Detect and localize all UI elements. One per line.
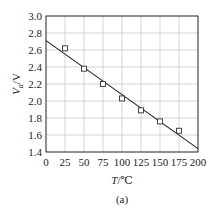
x-tick-label: 125 bbox=[133, 156, 150, 168]
y-axis-ticks: 1.41.61.82.02.22.42.62.83.0 bbox=[28, 10, 42, 158]
data-point-square bbox=[120, 96, 125, 101]
y-tick-label: 2.0 bbox=[28, 95, 42, 107]
data-point-square bbox=[82, 66, 87, 71]
y-axis-label: Va/V bbox=[10, 73, 25, 95]
x-tick-label: 0 bbox=[43, 156, 49, 168]
data-point-square bbox=[158, 119, 163, 124]
x-tick-label: 150 bbox=[152, 156, 169, 168]
y-tick-label: 1.6 bbox=[28, 129, 42, 141]
x-tick-label: 25 bbox=[60, 156, 72, 168]
y-tick-label: 3.0 bbox=[28, 10, 42, 22]
y-tick-label: 2.8 bbox=[28, 27, 42, 39]
x-tick-label: 100 bbox=[114, 156, 131, 168]
y-tick-label: 2.6 bbox=[28, 44, 42, 56]
data-point-square bbox=[101, 82, 106, 87]
y-tick-label: 2.4 bbox=[28, 61, 42, 73]
x-axis-ticks: 0255075100125150175200 bbox=[43, 156, 207, 168]
data-point-square bbox=[139, 108, 144, 113]
y-tick-label: 1.4 bbox=[28, 146, 42, 158]
y-tick-label: 1.8 bbox=[28, 112, 42, 124]
y-tick-label: 2.2 bbox=[28, 78, 42, 90]
x-axis-label: T/℃ bbox=[111, 174, 133, 186]
figure-caption: (a) bbox=[116, 193, 129, 206]
x-tick-label: 175 bbox=[171, 156, 188, 168]
x-tick-label: 75 bbox=[98, 156, 110, 168]
x-tick-label: 200 bbox=[190, 156, 207, 168]
grid-lines bbox=[46, 16, 198, 152]
chart: 1.41.61.82.02.22.42.62.83.0 025507510012… bbox=[0, 0, 213, 210]
x-tick-label: 50 bbox=[79, 156, 91, 168]
data-point-square bbox=[177, 128, 182, 133]
data-point-square bbox=[63, 46, 68, 51]
